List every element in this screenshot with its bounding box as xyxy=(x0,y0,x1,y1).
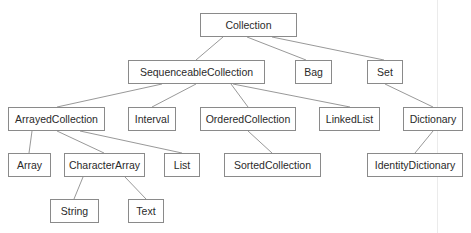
node-label: ArrayedCollection xyxy=(15,113,98,125)
node-list: List xyxy=(164,153,200,177)
node-array: Array xyxy=(8,153,51,177)
node-label: Bag xyxy=(304,66,323,78)
edge-sequenceable-interval xyxy=(152,84,196,107)
edge-sequenceable-linkedlist xyxy=(233,84,350,107)
node-label: String xyxy=(61,205,88,217)
node-label: OrderedCollection xyxy=(206,113,291,125)
node-string: String xyxy=(50,199,99,223)
node-text: Text xyxy=(128,199,164,223)
node-interval: Interval xyxy=(128,107,176,131)
node-label: IdentityDictionary xyxy=(375,159,456,171)
edge-set-dictionary xyxy=(385,84,433,107)
node-ordered-collection: OrderedCollection xyxy=(200,107,296,131)
edge-characterarray-text xyxy=(125,177,146,199)
node-label: Set xyxy=(377,66,393,78)
node-label: SequenceableCollection xyxy=(140,66,253,78)
node-sorted-collection: SortedCollection xyxy=(224,153,321,177)
node-label: Collection xyxy=(225,19,271,31)
edge-collection-sequenceable xyxy=(196,37,223,60)
edge-sequenceable-ordered xyxy=(231,84,248,107)
node-collection: Collection xyxy=(200,13,297,37)
edge-collection-set xyxy=(272,37,384,60)
edge-sequenceable-arrayed xyxy=(57,84,162,107)
edge-dictionary-identitydictionary xyxy=(415,131,433,153)
node-arrayed-collection: ArrayedCollection xyxy=(8,107,105,131)
edge-collection-bag xyxy=(247,37,306,60)
node-label: Text xyxy=(136,205,155,217)
node-sequenceable-collection: SequenceableCollection xyxy=(128,60,265,84)
node-label: LinkedList xyxy=(326,113,373,125)
node-label: List xyxy=(174,159,190,171)
edge-arrayed-list xyxy=(80,131,182,153)
edge-ordered-sorted xyxy=(248,131,272,153)
node-identity-dictionary: IdentityDictionary xyxy=(367,153,463,177)
node-linked-list: LinkedList xyxy=(319,107,380,131)
node-character-array: CharacterArray xyxy=(64,153,145,177)
edge-characterarray-string xyxy=(74,177,83,199)
class-hierarchy-diagram: Collection SequenceableCollection Bag Se… xyxy=(0,0,471,233)
node-bag: Bag xyxy=(295,60,332,84)
node-label: Interval xyxy=(135,113,169,125)
node-label: Array xyxy=(17,159,42,171)
node-set: Set xyxy=(367,60,403,84)
edge-arrayed-array xyxy=(29,131,32,153)
node-dictionary: Dictionary xyxy=(403,107,463,131)
node-label: SortedCollection xyxy=(234,159,311,171)
node-label: CharacterArray xyxy=(69,159,140,171)
node-label: Dictionary xyxy=(410,113,457,125)
